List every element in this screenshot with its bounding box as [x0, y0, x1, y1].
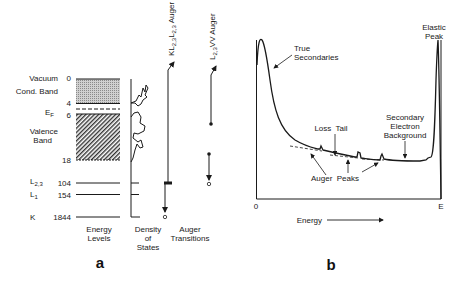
- auger-peaks-label: Auger Peaks: [311, 174, 359, 183]
- figure: Vacuum Cond. Band EF Valence Band L2,3 L…: [0, 0, 464, 285]
- dos-title-1: Density: [135, 225, 162, 234]
- value-4: 4: [67, 99, 72, 108]
- dos-title-3: States: [137, 243, 160, 252]
- true-secondaries-label-1: True: [294, 44, 311, 53]
- energy-levels-title-2: Levels: [87, 234, 110, 243]
- panel-b: Elastic Peak True Secondaries Loss Tail …: [254, 23, 446, 273]
- label-cond-band: Cond. Band: [16, 87, 58, 96]
- dos-title-2: of: [145, 234, 152, 243]
- auger-transition-lvv: L2,3VV Auger: [207, 13, 218, 186]
- label-k: K: [30, 213, 36, 222]
- label-vacuum: Vacuum: [29, 74, 58, 83]
- energy-levels-title-1: Energy: [86, 225, 111, 234]
- elastic-peak-label-2: Peak: [425, 32, 444, 41]
- label-ef: EF: [45, 108, 54, 118]
- value-1844: 1844: [53, 213, 71, 222]
- secondary-bg-label-3: Background: [384, 131, 427, 140]
- valence-band-block: [76, 114, 120, 160]
- lvv-auger-label: L2,3VV Auger: [208, 13, 218, 60]
- auger-transitions-title-2: Transitions: [171, 234, 210, 243]
- label-band: Band: [33, 136, 52, 145]
- label-l23: L2,3: [30, 177, 43, 187]
- value-6: 6: [67, 111, 72, 120]
- value-18: 18: [62, 156, 71, 165]
- secondary-bg-label-1: Secondary: [386, 113, 424, 122]
- value-104: 104: [58, 179, 72, 188]
- label-l1: L1: [30, 190, 38, 200]
- true-secondaries-label-2: Secondaries: [294, 53, 338, 62]
- loss-tail-label: Loss Tail: [314, 124, 347, 133]
- conduction-band-block: [76, 79, 120, 103]
- kll-auger-label: KL2,3L2,3 Auger: [167, 2, 177, 56]
- value-154: 154: [58, 191, 72, 200]
- auger-transitions-title-1: Auger: [179, 225, 201, 234]
- secondary-bg-label-2: Electron: [390, 122, 419, 131]
- label-valence: Valence: [30, 127, 59, 136]
- panel-b-letter: b: [326, 256, 335, 273]
- x-axis-end: E: [438, 202, 443, 211]
- auger-transition-kll: KL2,3L2,3 Auger: [163, 2, 177, 219]
- value-0: 0: [67, 74, 72, 83]
- density-of-states-plot: [131, 79, 148, 217]
- x-axis-start: 0: [254, 202, 259, 211]
- panel-a-letter: a: [96, 254, 105, 271]
- x-axis-label: Energy: [297, 216, 322, 225]
- elastic-peak-label-1: Elastic: [422, 23, 446, 32]
- panel-a: Vacuum Cond. Band EF Valence Band L2,3 L…: [16, 2, 218, 271]
